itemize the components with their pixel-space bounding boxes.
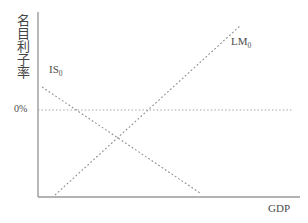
lm-curve — [55, 25, 241, 195]
lm-curve-label-subscript: 0 — [248, 41, 252, 50]
lm-curve-label-text: LM — [231, 35, 248, 47]
x-axis-title: GDP — [268, 203, 290, 214]
y-axis-title: 名目利子率 — [10, 14, 30, 79]
zero-rate-tick-label: 0% — [14, 104, 27, 114]
is-curve — [42, 87, 200, 193]
is-curve-label-text: IS — [49, 63, 59, 75]
is-curve-label: IS0 — [49, 64, 63, 78]
lm-curve-label: LM0 — [231, 36, 251, 50]
islm-diagram-figure: 名目利子率 0% IS0 LM0 GDP — [0, 0, 308, 223]
plot-canvas — [0, 0, 308, 223]
is-curve-label-subscript: 0 — [59, 69, 63, 78]
